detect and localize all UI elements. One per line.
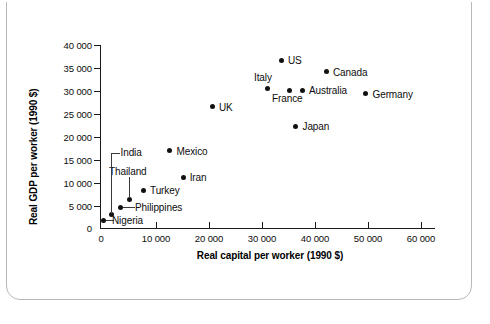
y-tick-label-20000: 20 000 <box>40 132 92 143</box>
y-tick-mark-5000 <box>94 206 100 207</box>
data-label-italy: Italy <box>254 72 272 83</box>
leader-line-india-horizontal <box>111 153 120 154</box>
x-tick-label-50000: 50 000 <box>347 233 389 244</box>
y-tick-mark-40000 <box>94 45 100 46</box>
x-tick-mark-50000 <box>368 222 369 229</box>
x-tick-label-20000: 20 000 <box>188 233 230 244</box>
x-tick-mark-30000 <box>262 222 263 229</box>
y-tick-label-35000: 35 000 <box>40 63 92 74</box>
data-point-us <box>279 58 284 63</box>
data-label-japan: Japan <box>303 121 330 132</box>
leader-line-india-vertical <box>111 153 112 214</box>
x-tick-mark-20000 <box>209 222 210 229</box>
y-tick-mark-35000 <box>94 68 100 69</box>
data-label-germany: Germany <box>373 89 413 100</box>
data-point-canada <box>324 69 329 74</box>
data-label-france: France <box>272 93 303 104</box>
y-tick-label-25000: 25 000 <box>40 109 92 120</box>
data-label-india: India <box>121 147 142 158</box>
y-tick-mark-30000 <box>94 91 100 92</box>
y-tick-mark-15000 <box>94 160 100 161</box>
data-label-philippines: Philippines <box>135 202 182 213</box>
y-tick-mark-25000 <box>94 114 100 115</box>
y-tick-label-10000: 10 000 <box>40 178 92 189</box>
y-tick-label-5000: 5 000 <box>40 201 92 212</box>
data-label-mexico: Mexico <box>177 146 208 157</box>
x-axis-title: Real capital per worker (1990 $) <box>140 250 400 261</box>
y-tick-mark-10000 <box>94 183 100 184</box>
data-point-germany <box>363 91 368 96</box>
y-tick-label-30000: 30 000 <box>40 86 92 97</box>
x-tick-label-0: 0 <box>80 233 122 244</box>
y-tick-label-40000: 40 000 <box>40 40 92 51</box>
x-axis-line <box>100 228 435 229</box>
x-tick-label-60000: 60 000 <box>400 233 442 244</box>
data-label-canada: Canada <box>333 67 367 78</box>
data-point-australia <box>300 88 305 93</box>
data-label-us: US <box>288 55 302 66</box>
data-label-thailand: Thailand <box>109 166 147 177</box>
y-axis-title: Real GDP per worker (1990 $) <box>28 88 39 225</box>
x-tick-label-40000: 40 000 <box>294 233 336 244</box>
leader-line-thailand <box>129 177 130 198</box>
data-label-nigeria: Nigeria <box>112 215 143 226</box>
data-point-iran <box>181 175 186 180</box>
data-label-australia: Australia <box>309 85 347 96</box>
data-point-japan <box>293 124 298 129</box>
y-tick-mark-20000 <box>94 137 100 138</box>
data-point-turkey <box>141 188 146 193</box>
leader-line-philippines <box>123 207 135 208</box>
data-label-iran: Iran <box>190 172 207 183</box>
y-axis-line <box>100 45 101 229</box>
y-tick-label-15000: 15 000 <box>40 155 92 166</box>
x-tick-label-30000: 30 000 <box>241 233 283 244</box>
data-point-uk <box>210 104 215 109</box>
x-tick-mark-60000 <box>421 222 422 229</box>
data-label-uk: UK <box>219 102 233 113</box>
x-tick-mark-40000 <box>315 222 316 229</box>
x-tick-label-10000: 10 000 <box>135 233 177 244</box>
data-point-italy <box>265 86 270 91</box>
x-tick-mark-10000 <box>156 222 157 229</box>
scatter-plot-figure: 40 000 35 000 30 000 25 000 20 000 15 00… <box>0 0 490 324</box>
data-label-turkey: Turkey <box>150 185 180 196</box>
data-point-mexico <box>167 148 172 153</box>
